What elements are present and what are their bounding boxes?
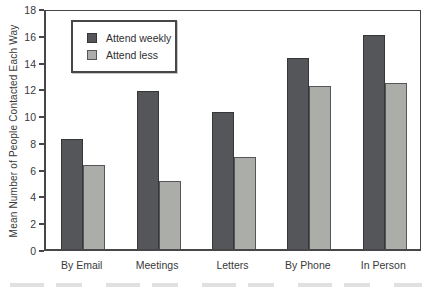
bar-attend-weekly-in-person: [363, 35, 385, 249]
y-tick-label: 16: [6, 31, 36, 43]
y-tick-mark: [39, 170, 44, 172]
y-tick-label: 2: [6, 218, 36, 230]
y-tick-label: 18: [6, 4, 36, 16]
y-tick-mark: [39, 196, 44, 198]
y-tick-mark: [39, 223, 44, 225]
bar-attend-less-by-email: [83, 165, 105, 249]
bar-attend-less-by-phone: [309, 86, 331, 249]
y-axis-title: Mean Number of People Contacted Each Way: [8, 25, 19, 238]
legend-label: Attend less: [106, 49, 158, 61]
y-tick-label: 6: [6, 165, 36, 177]
y-tick-label: 0: [6, 245, 36, 257]
legend-label: Attend weekly: [106, 32, 171, 44]
bar-attend-less-meetings: [159, 181, 181, 249]
bar-attend-weekly-letters: [212, 112, 234, 249]
y-tick-label: 10: [6, 111, 36, 123]
x-category-label: In Person: [338, 259, 428, 271]
attend-less-swatch-icon: [87, 50, 97, 60]
bar-attend-weekly-meetings: [137, 91, 159, 249]
y-tick-mark: [39, 250, 44, 252]
attend-weekly-swatch-icon: [87, 33, 97, 43]
y-tick-mark: [39, 36, 44, 38]
legend-entry-attend-weekly: Attend weekly: [87, 30, 167, 45]
y-tick-mark: [39, 89, 44, 91]
y-tick-label: 8: [6, 138, 36, 150]
bar-chart-figure: Mean Number of People Contacted Each Way…: [0, 0, 433, 289]
legend-entry-attend-less: Attend less: [87, 47, 167, 62]
y-tick-mark: [39, 63, 44, 65]
bar-attend-less-in-person: [385, 83, 407, 249]
y-tick-label: 12: [6, 84, 36, 96]
y-tick-mark: [39, 116, 44, 118]
y-tick-mark: [39, 143, 44, 145]
legend: Attend weekly Attend less: [71, 20, 177, 73]
bar-attend-less-letters: [234, 157, 256, 249]
bar-attend-weekly-by-email: [61, 139, 83, 249]
y-tick-label: 14: [6, 58, 36, 70]
y-tick-label: 4: [6, 191, 36, 203]
bar-attend-weekly-by-phone: [287, 58, 309, 249]
cropped-caption-fragment: [10, 283, 422, 287]
y-tick-mark: [39, 9, 44, 11]
